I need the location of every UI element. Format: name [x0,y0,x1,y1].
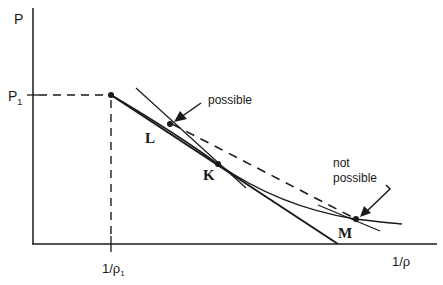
arrow-possible-icon [174,103,201,122]
point-k [215,161,221,167]
y-tick-label-p1: P1 [8,88,22,107]
arrow-not-possible-icon [360,185,390,217]
annotation-possible: possible [208,93,252,107]
rayleigh-line [111,95,338,244]
hugoniot-curve [111,95,402,224]
annotation-not: not [333,156,350,170]
x-tick-label-rho1: 1/ρ1 [102,261,125,278]
x-axis-label: 1/ρ [392,254,410,269]
pressure-specific-volume-diagram: P P1 1/ρ1 1/ρ L K M possible not possibl… [0,0,443,285]
point-label-k: K [203,167,215,183]
dashed-line-l-to-m [172,124,354,218]
annotation-not-possible: possible [333,171,377,185]
point-label-l: L [145,130,155,146]
point-m [353,216,359,222]
y-axis-label: P [14,11,23,27]
point-label-m: M [338,225,352,241]
point-initial [108,92,114,98]
point-tangent-l [167,121,173,127]
